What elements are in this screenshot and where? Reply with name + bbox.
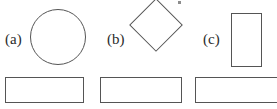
- shape-upright-rectangle: [231, 13, 262, 67]
- ground-block-c: [195, 77, 277, 103]
- crop-speck: [178, 1, 181, 4]
- panel-label-b: (b): [107, 32, 125, 47]
- panel-label-a: (a): [5, 32, 22, 47]
- ground-block-a: [5, 77, 84, 103]
- figure-container: (a) (b) (c): [0, 0, 277, 109]
- shape-circle: [30, 9, 86, 65]
- ground-block-b: [100, 77, 182, 103]
- panel-label-c: (c): [203, 32, 220, 47]
- shape-diamond: [129, 0, 183, 52]
